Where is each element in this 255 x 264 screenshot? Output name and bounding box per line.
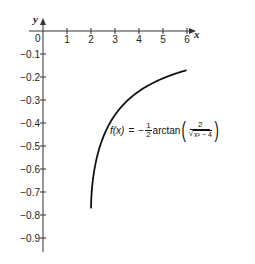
x-tick-label: 4: [136, 34, 142, 45]
left-paren: (: [182, 119, 186, 141]
y-axis-label: y: [31, 13, 38, 25]
y-tick-label: −0.9: [20, 233, 40, 244]
x-tick-label: 2: [88, 34, 94, 45]
y-tick-label: −0.5: [20, 141, 40, 152]
y-axis-arrow-icon: [40, 18, 46, 25]
half-fraction: 1 2: [145, 122, 151, 139]
right-paren: ): [214, 119, 218, 141]
x-tick-label: 1: [64, 34, 70, 45]
formula-func: arctan: [153, 125, 181, 136]
half-denominator: 2: [146, 131, 150, 139]
inner-fraction: 2 √ x² − 4: [189, 121, 212, 139]
x-axis-label: x: [193, 28, 200, 40]
y-tick-label: −0.1: [20, 49, 40, 60]
y-tick-label: −0.4: [20, 118, 40, 129]
inner-denominator: √ x² − 4: [189, 130, 212, 139]
x-tick-label: 3: [112, 34, 118, 45]
y-tick-label: −0.7: [20, 187, 40, 198]
x-tick-label: 5: [160, 34, 166, 45]
formula-lhs: f(x): [110, 125, 124, 136]
y-ticks: −0.1−0.2−0.3−0.4−0.5−0.6−0.7−0.8−0.9: [20, 49, 46, 244]
formula-equals: =: [128, 125, 134, 136]
origin-label: 0: [35, 33, 41, 44]
y-tick-label: −0.3: [20, 95, 40, 106]
inner-numerator: 2: [190, 121, 210, 130]
x-tick-label: 6: [184, 34, 190, 45]
radicand: x² − 4: [193, 130, 212, 139]
y-tick-label: −0.2: [20, 72, 40, 83]
y-tick-label: −0.8: [20, 210, 40, 221]
formula-minus: −: [138, 125, 144, 136]
function-annotation: f(x) = − 1 2 arctan ( 2 √ x² − 4 ): [110, 119, 220, 141]
y-tick-label: −0.6: [20, 164, 40, 175]
